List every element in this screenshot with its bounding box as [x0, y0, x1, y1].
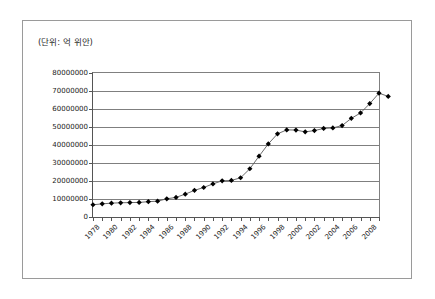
- data-point-marker: [90, 202, 95, 207]
- data-point-marker: [312, 128, 317, 133]
- x-axis-tick-mark: [361, 217, 362, 221]
- data-point-marker: [321, 126, 326, 131]
- plot-area: 0100000002000000030000000400000005000000…: [92, 72, 380, 218]
- x-axis-tick-mark: [324, 217, 325, 221]
- data-point-marker: [183, 192, 188, 197]
- y-axis-tick-label: 50000000: [52, 123, 88, 131]
- x-axis-tick-mark: [370, 217, 371, 221]
- data-point-marker: [293, 127, 298, 132]
- x-axis-tick-mark: [250, 217, 251, 221]
- unit-caption: (단위: 억 위안): [38, 35, 93, 47]
- data-point-marker: [127, 200, 132, 205]
- x-axis-tick-mark: [351, 217, 352, 221]
- y-axis-tick-label: 20000000: [52, 177, 88, 185]
- data-point-marker: [146, 199, 151, 204]
- x-axis-tick-mark: [158, 217, 159, 221]
- x-axis-tick-mark: [139, 217, 140, 221]
- x-axis-tick-mark: [148, 217, 149, 221]
- data-point-marker: [155, 199, 160, 204]
- y-axis-tick-label: 70000000: [52, 87, 88, 95]
- data-point-marker: [164, 196, 169, 201]
- x-axis-tick-mark: [278, 217, 279, 221]
- data-point-marker: [220, 178, 225, 183]
- data-point-marker: [100, 201, 105, 206]
- y-axis-tick-label: 80000000: [52, 69, 88, 77]
- data-point-marker: [192, 188, 197, 193]
- y-axis-tick-label: 60000000: [52, 105, 88, 113]
- x-axis-tick-mark: [314, 217, 315, 221]
- chart-figure: (단위: 억 위안) 01000000020000000300000004000…: [0, 0, 435, 299]
- x-axis-tick-mark: [204, 217, 205, 221]
- data-point-marker: [284, 127, 289, 132]
- x-axis-tick-mark: [176, 217, 177, 221]
- x-axis-tick-mark: [185, 217, 186, 221]
- x-axis-tick-mark: [342, 217, 343, 221]
- data-point-marker: [210, 181, 215, 186]
- data-point-marker: [303, 129, 308, 134]
- x-axis-tick-mark: [167, 217, 168, 221]
- series-line: [93, 93, 388, 205]
- data-series-layer: [93, 73, 379, 217]
- x-axis-tick-mark: [102, 217, 103, 221]
- y-axis-tick-label: 10000000: [52, 195, 88, 203]
- y-axis-tick-label: 0: [84, 213, 88, 221]
- data-point-marker: [118, 200, 123, 205]
- y-axis-tick-label: 30000000: [52, 159, 88, 167]
- x-axis-tick-mark: [287, 217, 288, 221]
- x-axis-tick-mark: [194, 217, 195, 221]
- x-axis-tick-mark: [305, 217, 306, 221]
- data-point-marker: [137, 200, 142, 205]
- x-axis-tick-mark: [222, 217, 223, 221]
- x-axis-tick-mark: [121, 217, 122, 221]
- x-axis-tick-mark: [231, 217, 232, 221]
- data-point-marker: [173, 195, 178, 200]
- x-axis-tick-mark: [379, 217, 380, 221]
- data-point-marker: [330, 125, 335, 130]
- y-axis-tick-label: 40000000: [52, 141, 88, 149]
- x-axis-tick-mark: [268, 217, 269, 221]
- x-axis-tick-mark: [259, 217, 260, 221]
- data-point-marker: [109, 201, 114, 206]
- x-axis-tick-mark: [93, 217, 94, 221]
- x-axis-tick-mark: [130, 217, 131, 221]
- x-axis-tick-mark: [333, 217, 334, 221]
- x-axis-tick-mark: [111, 217, 112, 221]
- data-point-marker: [229, 178, 234, 183]
- x-axis-tick-mark: [296, 217, 297, 221]
- x-axis-tick-mark: [213, 217, 214, 221]
- data-point-marker: [201, 185, 206, 190]
- x-axis-tick-mark: [241, 217, 242, 221]
